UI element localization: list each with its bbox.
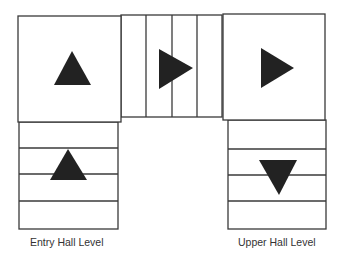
left-landing [18,16,121,122]
upper-hall-level-label: Upper Hall Level [238,236,316,248]
left-stair-flight [19,122,118,229]
entry-hall-level-label: Entry Hall Level [30,236,104,248]
middle-stair-flight [121,15,222,117]
stair-plan-diagram [0,0,345,262]
right-landing [223,14,325,120]
right-stair-flight [228,120,326,229]
